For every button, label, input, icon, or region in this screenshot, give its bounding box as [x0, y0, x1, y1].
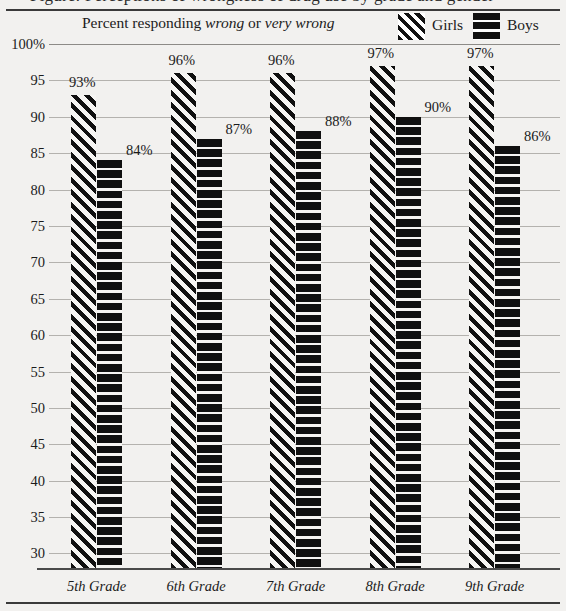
- y-axis-tick-label: 70: [0, 254, 45, 271]
- x-axis-tick-label: 8th Grade: [365, 578, 424, 595]
- legend-swatch-boys-icon: [473, 13, 500, 40]
- subtitle-prefix: Percent responding: [82, 14, 205, 31]
- bar-value-label: 96%: [169, 52, 196, 69]
- x-axis-tick-label: 5th Grade: [67, 578, 126, 595]
- bar-girls-8th-grade: [370, 66, 395, 568]
- chart-title-clipped: Figure: Perceptions of wrongness of drug…: [0, 0, 566, 9]
- legend-swatch-girls-icon: [398, 13, 425, 40]
- y-axis-tick-label: 100%: [0, 36, 45, 53]
- bar-value-label: 93%: [69, 74, 96, 91]
- y-axis-tick-label: 40: [0, 472, 45, 489]
- bar-girls-9th-grade: [469, 66, 494, 568]
- bar-value-label: 88%: [325, 113, 352, 130]
- subtitle-emphasis-wrong: wrong: [205, 14, 244, 31]
- y-axis-tick-label: 95: [0, 72, 45, 89]
- bar-boys-6th-grade: [197, 139, 222, 568]
- y-axis-tick-label: 75: [0, 217, 45, 234]
- caption-and-legend-band: Percent responding wrong or very wrong G…: [0, 11, 566, 40]
- chart-title-text: Figure: Perceptions of wrongness of drug…: [30, 0, 494, 6]
- y-axis-tick-label: 35: [0, 509, 45, 526]
- plot-area: 100%959085807570656055504540353093%84%96…: [0, 40, 566, 570]
- y-axis-tick-label: 55: [0, 363, 45, 380]
- bar-value-label: 96%: [268, 52, 295, 69]
- x-axis-tick-label: 9th Grade: [465, 578, 524, 595]
- subtitle-middle: or: [244, 14, 265, 31]
- bar-girls-5th-grade: [71, 95, 96, 568]
- bar-girls-6th-grade: [171, 73, 196, 568]
- y-axis-tick-label: 85: [0, 145, 45, 162]
- bar-value-label: 86%: [524, 128, 551, 145]
- legend-label-girls: Girls: [432, 16, 463, 34]
- bar-girls-7th-grade: [270, 73, 295, 568]
- chart-subtitle: Percent responding wrong or very wrong: [82, 14, 334, 32]
- footer-divider-rule: [6, 602, 560, 604]
- bar-value-label: 87%: [226, 121, 253, 138]
- x-axis-band: 5th Grade6th Grade7th Grade8th Grade9th …: [0, 572, 566, 611]
- subtitle-emphasis-very-wrong: very wrong: [265, 14, 335, 31]
- bar-value-label: 97%: [368, 45, 395, 62]
- y-axis-tick-label: 80: [0, 181, 45, 198]
- bar-boys-5th-grade: [97, 160, 122, 568]
- y-axis-tick-label: 30: [0, 545, 45, 562]
- y-axis-tick-label: 90: [0, 108, 45, 125]
- bar-value-label: 90%: [425, 99, 452, 116]
- bar-boys-7th-grade: [296, 131, 321, 568]
- x-axis-baseline: [37, 568, 560, 570]
- legend-label-boys: Boys: [507, 16, 539, 34]
- y-axis-tick-label: 65: [0, 290, 45, 307]
- y-axis-tick-label: 60: [0, 327, 45, 344]
- y-axis-tick-label: 45: [0, 436, 45, 453]
- y-axis-tick-label: 50: [0, 399, 45, 416]
- x-axis-tick-label: 7th Grade: [266, 578, 325, 595]
- bar-boys-8th-grade: [396, 117, 421, 568]
- x-axis-tick-label: 6th Grade: [166, 578, 225, 595]
- bar-value-label: 97%: [467, 45, 494, 62]
- bar-boys-9th-grade: [495, 146, 520, 568]
- bar-value-label: 84%: [126, 142, 153, 159]
